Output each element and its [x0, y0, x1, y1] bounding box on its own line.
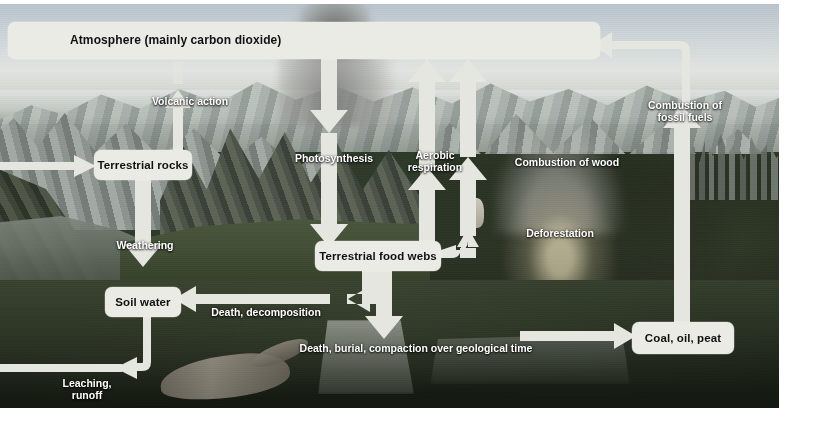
arrow-combustion-of-fossil-fuels	[663, 105, 701, 322]
node-terrestrial-food-webs[interactable]: Terrestrial food webs	[315, 241, 441, 271]
arrow-weathering	[124, 180, 162, 267]
label-deforestation-text: Deforestation	[526, 227, 594, 239]
label-death-decomposition: Death, decomposition	[205, 294, 327, 318]
arrow-aerobic-respiration-lower	[408, 167, 446, 241]
node-coal-oil-peat[interactable]: Coal, oil, peat	[632, 322, 734, 354]
label-combustion-of-wood: Combustion of wood	[503, 144, 631, 168]
node-atmosphere[interactable]: Atmosphere (mainly carbon dioxide)	[8, 22, 600, 59]
carbon-cycle-figure: Atmosphere (mainly carbon dioxide) Terre…	[0, 0, 829, 431]
label-weathering-text: Weathering	[117, 239, 174, 251]
label-death-burial-compaction-text: Death, burial, compaction over geologica…	[300, 342, 533, 354]
arrow-deforestation	[441, 245, 456, 250]
arrow-food-webs-down-to-decomposition	[362, 271, 378, 304]
node-soil-water-label: Soil water	[115, 296, 170, 309]
label-death-decomposition-text: Death, decomposition	[211, 306, 321, 318]
label-combustion-of-wood-text: Combustion of wood	[515, 156, 619, 168]
node-coal-oil-peat-label: Coal, oil, peat	[645, 332, 721, 345]
node-terrestrial-rocks-label: Terrestrial rocks	[98, 159, 189, 172]
label-volcanic-action: Volcanic action	[145, 83, 235, 107]
label-leaching-runoff: Leaching, runoff	[54, 365, 120, 402]
label-photosynthesis-text: Photosynthesis	[295, 152, 373, 164]
node-terrestrial-rocks[interactable]: Terrestrial rocks	[94, 150, 192, 180]
label-leaching-runoff-text: Leaching, runoff	[62, 377, 111, 401]
label-death-burial-compaction: Death, burial, compaction over geologica…	[298, 330, 534, 354]
label-aerobic-respiration: Aerobic respiration	[396, 137, 474, 174]
arrow-layer	[0, 0, 829, 431]
node-terrestrial-food-webs-label: Terrestrial food webs	[319, 250, 437, 263]
label-weathering: Weathering	[104, 227, 186, 251]
label-combustion-of-fossil-fuels-text: Combustion of fossil fuels	[648, 99, 722, 123]
label-photosynthesis: Photosynthesis	[286, 140, 382, 164]
arrow-volcanic-action-tail	[173, 62, 183, 84]
arrow-ocean-to-terrestrial-rocks	[0, 155, 96, 177]
diagram-overlay	[0, 0, 829, 431]
arrow-photosynthesis	[310, 59, 348, 133]
label-combustion-of-fossil-fuels: Combustion of fossil fuels	[636, 87, 734, 124]
arrow-death-burial-right	[520, 323, 636, 349]
node-atmosphere-label: Atmosphere (mainly carbon dioxide)	[70, 34, 281, 47]
label-aerobic-respiration-text: Aerobic respiration	[408, 149, 462, 173]
label-volcanic-action-text: Volcanic action	[152, 95, 228, 107]
arrow-deforestation-shaft	[460, 248, 476, 258]
label-deforestation: Deforestation	[515, 215, 605, 239]
node-soil-water[interactable]: Soil water	[105, 287, 181, 317]
